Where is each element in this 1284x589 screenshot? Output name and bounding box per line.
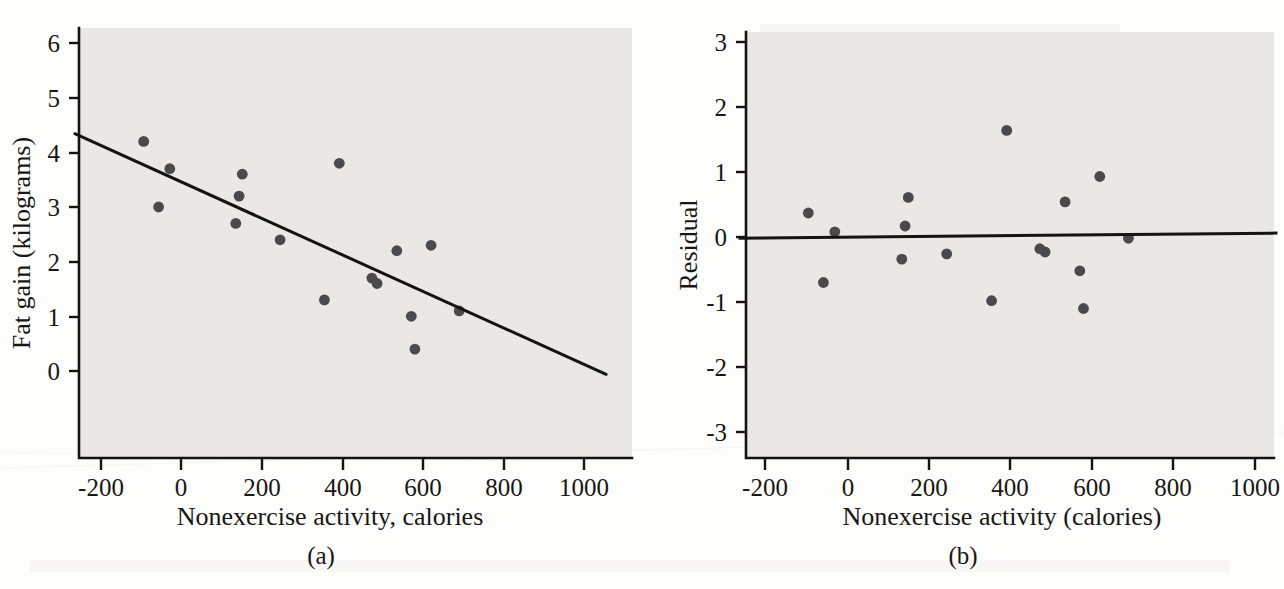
y-tick-label: 0 xyxy=(48,358,61,385)
data-point xyxy=(896,254,907,265)
data-point xyxy=(829,226,840,237)
data-point xyxy=(138,136,149,147)
y-tick-label: 3 xyxy=(715,29,728,56)
data-point xyxy=(391,245,402,256)
x-tick-label: 600 xyxy=(404,474,442,501)
data-point xyxy=(900,221,911,232)
x-axis-tick-labels: -200 0 200 400 600 800 1000 xyxy=(742,474,1280,501)
y-tick-label: 0 xyxy=(715,224,728,251)
x-tick-label: 0 xyxy=(842,474,855,501)
x-tick-label: -200 xyxy=(78,474,124,501)
data-point xyxy=(410,344,421,355)
data-point xyxy=(1078,303,1089,314)
y-tick-label: -2 xyxy=(706,354,727,381)
data-point xyxy=(275,234,286,245)
plot-area-background xyxy=(746,32,1274,458)
x-axis-ticks xyxy=(765,458,1255,470)
data-point xyxy=(941,249,952,260)
x-axis-tick-labels: -200 0 200 400 600 800 1000 xyxy=(78,474,609,501)
y-tick-label: 3 xyxy=(48,194,61,221)
data-point xyxy=(334,158,345,169)
data-point xyxy=(234,191,245,202)
x-tick-label: 0 xyxy=(175,474,188,501)
x-axis-title: Nonexercise activity (calories) xyxy=(842,502,1161,530)
x-tick-label: 800 xyxy=(1154,474,1192,501)
x-tick-label: 1000 xyxy=(1230,474,1280,501)
y-tick-label: 1 xyxy=(715,159,728,186)
data-point xyxy=(803,208,814,219)
data-point xyxy=(1060,197,1071,208)
y-tick-label: 2 xyxy=(715,94,728,121)
y-axis-title: Residual xyxy=(674,200,703,291)
y-tick-label: -1 xyxy=(706,289,727,316)
y-tick-label: 2 xyxy=(48,249,61,276)
y-axis-ticks xyxy=(69,43,79,371)
x-axis-ticks xyxy=(101,458,584,470)
plot-area-background xyxy=(79,28,632,458)
y-tick-label: 4 xyxy=(48,140,61,167)
data-point xyxy=(1040,247,1051,258)
x-tick-label: 200 xyxy=(910,474,948,501)
data-point xyxy=(319,295,330,306)
data-point xyxy=(153,202,164,213)
x-tick-label: 600 xyxy=(1073,474,1111,501)
data-point xyxy=(406,311,417,322)
data-point xyxy=(426,240,437,251)
data-point xyxy=(1074,265,1085,276)
x-tick-label: 1000 xyxy=(559,474,609,501)
y-tick-label: 5 xyxy=(48,85,61,112)
y-tick-label: 1 xyxy=(48,304,61,331)
panel-a: 6 5 4 3 2 1 0 -200 0 200 xyxy=(0,0,642,589)
panel-a-plot: 6 5 4 3 2 1 0 -200 0 200 xyxy=(0,0,642,530)
y-tick-label: 6 xyxy=(48,30,61,57)
y-axis-title: Fat gain (kilograms) xyxy=(7,137,36,349)
panel-a-caption: (a) xyxy=(0,542,642,570)
x-tick-label: 200 xyxy=(243,474,281,501)
data-point xyxy=(818,277,829,288)
y-axis-ticks xyxy=(736,42,746,432)
figure-container: 6 5 4 3 2 1 0 -200 0 200 xyxy=(0,0,1284,589)
y-axis-tick-labels: 6 5 4 3 2 1 0 xyxy=(48,30,61,385)
x-tick-label: -200 xyxy=(742,474,788,501)
data-point xyxy=(986,295,997,306)
x-axis-title: Nonexercise activity, calories xyxy=(177,502,484,530)
data-point xyxy=(230,218,241,229)
y-axis-tick-labels: 3 2 1 0 -1 -2 -3 xyxy=(706,29,727,446)
y-tick-label: -3 xyxy=(706,419,727,446)
panel-b-plot: 3 2 1 0 -1 -2 -3 -200 0 200 xyxy=(642,0,1284,530)
x-tick-label: 400 xyxy=(324,474,362,501)
x-tick-label: 400 xyxy=(991,474,1029,501)
data-point xyxy=(1094,171,1105,182)
data-point xyxy=(903,192,914,203)
data-point xyxy=(164,163,175,174)
data-point xyxy=(372,278,383,289)
panel-b-caption: (b) xyxy=(642,542,1284,570)
panel-b: 3 2 1 0 -1 -2 -3 -200 0 200 xyxy=(642,0,1284,589)
data-point xyxy=(237,169,248,180)
x-tick-label: 800 xyxy=(485,474,523,501)
data-point xyxy=(1001,125,1012,136)
